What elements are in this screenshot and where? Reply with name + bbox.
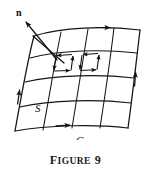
boundary-arrow-bottom: [56, 125, 70, 126]
figure-caption-word: FIGURE: [50, 156, 91, 166]
figure-container: n S C FIGURE9: [0, 0, 151, 171]
label-normal-vector-n: n: [16, 7, 22, 18]
surface-patch: [15, 28, 140, 131]
figure-caption-dropcap: F: [50, 153, 58, 167]
figure-caption: FIGURE9: [0, 150, 151, 168]
normal-vector-arrow: [26, 22, 57, 60]
loop-left-bottom-arrow: [54, 71, 70, 72]
surface-col-line-3: [100, 28, 114, 128]
surface-right-edge: [128, 30, 140, 128]
loop-right-bottom-arrow: [80, 70, 96, 71]
loop-left-top-arrow: [57, 55, 72, 56]
figure-caption-word-rest: IGURE: [58, 156, 91, 166]
stokes-theorem-diagram: n S C: [0, 0, 151, 140]
surface-left-edge: [15, 36, 34, 131]
surface-bottom-edge-curve-c: [15, 126, 128, 131]
loop-right-east-arrow: [97, 55, 99, 70]
loop-left-east-arrow: [71, 56, 73, 71]
label-boundary-curve-c: C: [76, 134, 84, 140]
loop-right-top-arrow: [83, 54, 98, 55]
boundary-arrow-left: [18, 90, 20, 104]
surface-col-line-2: [72, 29, 88, 128]
label-surface-s: S: [35, 102, 41, 114]
figure-caption-number: 9: [95, 153, 101, 167]
